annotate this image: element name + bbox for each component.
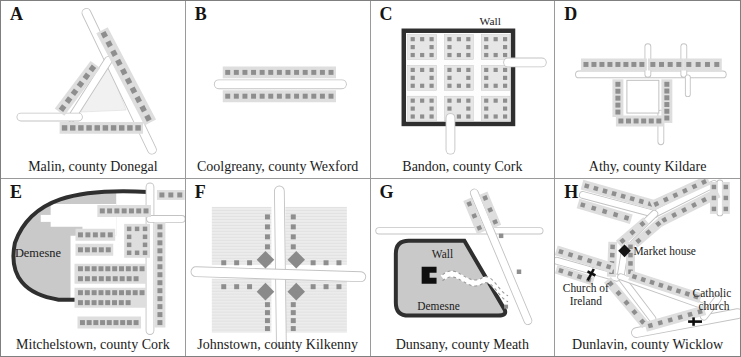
- panel-d: D Athy, county Kildare: [555, 1, 740, 179]
- building-row: [724, 181, 728, 213]
- building-row: [616, 119, 664, 124]
- building-row: [712, 181, 716, 213]
- building: [516, 269, 520, 273]
- johnstown-map: [186, 179, 370, 357]
- panel-d-letter: D: [564, 4, 577, 25]
- panel-b-caption: Coolgreany, county Wexford: [186, 159, 370, 175]
- building-row: [310, 260, 341, 265]
- dunsany-map: Wall Demesne: [371, 179, 555, 357]
- catholic-church-label-line1: Catholic: [693, 286, 732, 298]
- panel-g-letter: G: [380, 182, 394, 203]
- mitchelstown-map: Demesne: [1, 179, 185, 357]
- dunlavin-map: Market house Church of Ireland Catholic …: [555, 179, 740, 357]
- market-square: [627, 80, 659, 113]
- church-of-ireland-label-line2: Ireland: [570, 294, 603, 306]
- church-of-ireland-label-line1: Church of: [563, 281, 609, 293]
- panel-a-caption: Malin, county Donegal: [1, 159, 185, 175]
- bandon-blocks: [407, 35, 509, 121]
- building-row: [581, 62, 647, 67]
- panel-h-letter: H: [564, 182, 578, 203]
- panel-b: B Coolgreany, county Wexford: [186, 1, 371, 179]
- building-row: [60, 125, 143, 130]
- wall-label: Wall: [431, 247, 452, 259]
- catholic-church-label-line2: church: [699, 299, 730, 311]
- building-row: [78, 276, 139, 281]
- demesne-label: Demesne: [15, 245, 62, 259]
- panel-b-letter: B: [195, 4, 207, 25]
- building-row: [127, 250, 147, 254]
- panel-h: H Market house: [555, 179, 740, 357]
- panel-g: G Wall Demesne Dunsany, county Meath: [371, 179, 556, 357]
- building-row: [223, 94, 336, 99]
- bandon-map: Wall: [371, 1, 555, 178]
- panel-d-caption: Athy, county Kildare: [555, 159, 740, 175]
- town-plans-figure: A Malin, county Donegal B Coolgreany, co…: [0, 0, 741, 357]
- building-row: [223, 70, 336, 75]
- building-row: [157, 192, 185, 197]
- panel-f: F John: [186, 179, 371, 357]
- panel-e-letter: E: [10, 182, 22, 203]
- malin-map: [1, 1, 185, 178]
- gate-building: [504, 304, 508, 308]
- panel-e: E Demesne Mitchelst: [1, 179, 186, 357]
- building-row: [77, 320, 141, 325]
- panel-c-caption: Bandon, county Cork: [371, 159, 555, 175]
- building-row: [310, 284, 341, 289]
- building-row: [684, 62, 722, 67]
- panel-a: A Malin, county Donegal: [1, 1, 186, 179]
- building-row: [221, 260, 252, 265]
- building: [498, 233, 502, 237]
- coolgreany-map: [186, 1, 370, 178]
- building-row: [157, 221, 162, 327]
- market-house-label: Market house: [634, 244, 696, 256]
- panel-f-letter: F: [195, 182, 206, 203]
- wall-label: Wall: [479, 15, 500, 27]
- panel-h-caption: Dunlavin, county Wicklow: [555, 337, 740, 353]
- demesne-label: Demesne: [417, 299, 459, 311]
- panel-c: C Wall Bandon, county Cork: [371, 1, 556, 179]
- road: [279, 190, 281, 342]
- building-row: [221, 284, 252, 289]
- building-row: [97, 208, 151, 213]
- road: [196, 271, 361, 276]
- building-row: [665, 79, 670, 123]
- athy-map: [555, 1, 740, 178]
- panel-e-caption: Mitchelstown, county Cork: [1, 337, 185, 353]
- building-row: [75, 247, 113, 252]
- panel-f-caption: Johnstown, county Kilkenny: [186, 337, 370, 353]
- panel-c-letter: C: [380, 4, 393, 25]
- building-row: [648, 62, 684, 67]
- building-row: [127, 226, 147, 230]
- panel-a-letter: A: [10, 4, 23, 25]
- building-row: [75, 232, 115, 237]
- building-row: [616, 79, 621, 117]
- panel-g-caption: Dunsany, county Meath: [371, 337, 555, 353]
- street-cut: [41, 214, 52, 221]
